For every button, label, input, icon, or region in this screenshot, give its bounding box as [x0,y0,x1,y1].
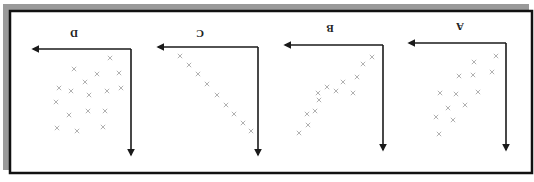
panel-label: A [456,21,464,33]
panel-label: B [326,23,334,35]
panel-label: C [196,28,204,40]
figure-canvas: ABCD [0,0,534,182]
figure-four-scatter-panels: ABCD [0,0,534,182]
panel-label: D [70,28,78,40]
